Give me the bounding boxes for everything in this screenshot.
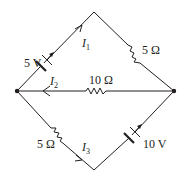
label-i1: I1: [81, 36, 90, 52]
label-5ohm-top: 5 Ω: [142, 43, 160, 57]
label-5ohm-bottom: 5 Ω: [37, 137, 55, 151]
resistor-10ohm-icon: [86, 88, 106, 94]
label-i3: I3: [81, 140, 90, 156]
branch-bottom-right: [94, 91, 174, 170]
branch-left-top: [17, 12, 94, 91]
label-i2: I2: [49, 74, 58, 90]
branch-middle: [17, 86, 174, 96]
circuit-diagram: 5 V I1 5 Ω I2 10 Ω 5 Ω I3 10 V: [0, 0, 189, 180]
current-arrow-i3-icon: [75, 155, 82, 161]
resistor-5ohm-top-icon: [128, 45, 140, 63]
label-5v: 5 V: [24, 56, 42, 70]
label-10v: 10 V: [143, 137, 167, 151]
junction-left: [15, 89, 19, 93]
junction-right: [172, 89, 176, 93]
branch-left-bottom: [17, 91, 94, 170]
label-10ohm: 10 Ω: [89, 73, 113, 87]
